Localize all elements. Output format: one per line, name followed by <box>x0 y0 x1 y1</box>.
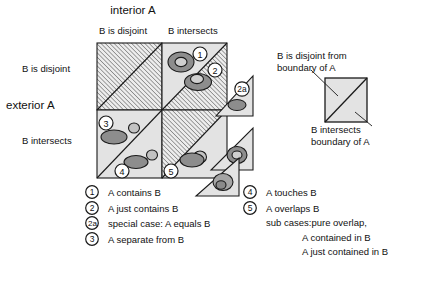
marker-2a: 2a <box>235 82 249 96</box>
marker-3: 3 <box>99 116 113 130</box>
svg-text:1: 1 <box>90 187 95 197</box>
svg-text:4: 4 <box>119 167 124 177</box>
key-label-3: A separate from B <box>108 233 184 248</box>
svg-text:2: 2 <box>212 66 217 76</box>
key-marker-5: 5 <box>242 201 261 214</box>
sub-case-line-2: A contained in B <box>242 231 388 246</box>
marker-4: 4 <box>115 164 129 178</box>
key-marker-2: 2 <box>84 201 103 214</box>
key-marker-1: 1 <box>84 185 103 198</box>
svg-text:3: 3 <box>90 234 95 244</box>
marker-5: 5 <box>164 164 178 178</box>
svg-text:5: 5 <box>168 167 173 177</box>
svg-text:1: 1 <box>197 50 202 60</box>
key-marker-2a: 2a <box>84 216 103 229</box>
shape-case-2 <box>185 74 212 91</box>
key-marker-3: 3 <box>84 232 103 245</box>
svg-text:2a: 2a <box>88 219 97 228</box>
key-label-1: A contains B <box>108 186 161 201</box>
shape-case-1 <box>168 52 194 72</box>
key-label-4: A touches B <box>266 186 317 201</box>
svg-text:2: 2 <box>90 203 95 213</box>
svg-text:4: 4 <box>248 187 253 197</box>
svg-text:3: 3 <box>103 119 108 129</box>
sub-case-line-1: sub cases:pure overlap, <box>242 216 388 231</box>
key-item-5: 5 A overlaps B <box>242 201 388 217</box>
key-label-5: A overlaps B <box>266 202 319 217</box>
boundary-legend-square <box>311 70 372 126</box>
svg-text:2a: 2a <box>237 84 247 94</box>
key-marker-4: 4 <box>242 185 261 198</box>
marker-2: 2 <box>208 63 222 77</box>
key-label-2: A just contains B <box>108 202 178 217</box>
diagram-canvas: interior A B is disjoint B intersects ex… <box>0 0 425 284</box>
svg-text:5: 5 <box>248 203 253 213</box>
cell-exterior-disjoint-interior-disjoint <box>97 43 162 110</box>
sub-case-line-3: A just contained in B <box>242 245 388 260</box>
key-label-2a: special case: A equals B <box>108 217 210 232</box>
key-item-4: 4 A touches B <box>242 185 388 201</box>
marker-1: 1 <box>193 47 207 61</box>
key-column-right: 4 A touches B 5 A overlaps B sub cases:p… <box>242 185 388 260</box>
